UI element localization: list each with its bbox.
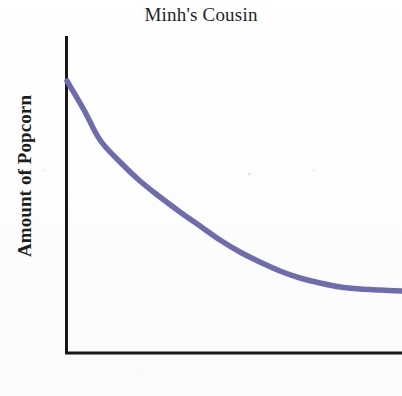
chart-figure: Minh's Cousin Amount of Popcorn bbox=[0, 0, 402, 396]
data-series-line bbox=[67, 81, 402, 291]
plot-area bbox=[0, 0, 402, 396]
